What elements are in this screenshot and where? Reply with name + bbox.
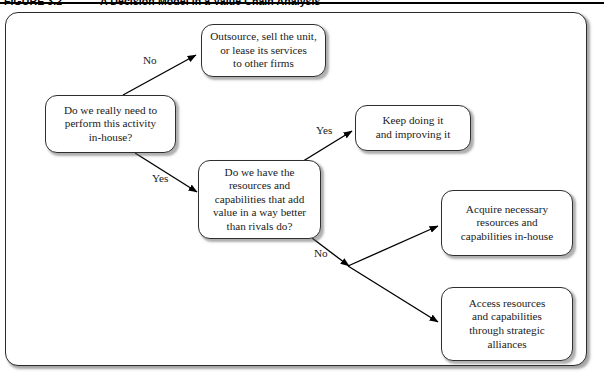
node-have-resources-text: Do we have the resources and capabilitie… bbox=[207, 166, 312, 234]
node-outsource-text: Outsource, sell the unit, or lease its s… bbox=[204, 30, 323, 71]
node-need-inhouse: Do we really need to perform this activi… bbox=[45, 95, 176, 153]
node-access: Access resources and capabilities throug… bbox=[441, 287, 573, 361]
figure-root: FIGURE 3.2 A Decision Model in a Value C… bbox=[0, 0, 604, 373]
edge-label-need-to-have-resources: Yes bbox=[152, 172, 168, 184]
edge-label-resources-to-acquire: No bbox=[314, 247, 328, 259]
node-need-inhouse-text: Do we really need to perform this activi… bbox=[58, 104, 163, 145]
node-access-text: Access resources and capabilities throug… bbox=[463, 297, 552, 351]
node-have-resources: Do we have the resources and capabilitie… bbox=[198, 160, 321, 239]
edge-label-need-to-outsource: No bbox=[143, 54, 157, 66]
node-outsource: Outsource, sell the unit, or lease its s… bbox=[201, 24, 326, 77]
node-keep-doing-text: Keep doing it and improving it bbox=[370, 114, 457, 141]
node-acquire: Acquire necessary resources and capabili… bbox=[441, 190, 573, 256]
caption-divider-rule bbox=[0, 2, 604, 4]
node-acquire-text: Acquire necessary resources and capabili… bbox=[455, 203, 559, 244]
edge-label-resources-to-keep-doing: Yes bbox=[316, 124, 332, 136]
figure-caption-bar: FIGURE 3.2 A Decision Model in a Value C… bbox=[0, 0, 604, 9]
node-keep-doing: Keep doing it and improving it bbox=[355, 105, 471, 151]
